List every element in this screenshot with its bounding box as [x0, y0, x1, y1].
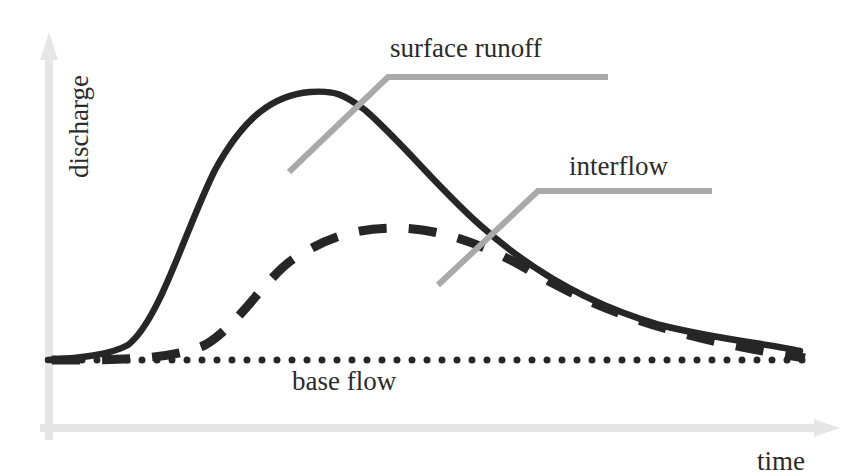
axes — [40, 32, 840, 440]
interflow-label: interflow — [569, 151, 668, 181]
surface-runoff-label: surface runoff — [390, 33, 542, 63]
y-axis-label: discharge — [64, 75, 94, 178]
leader-lines — [289, 77, 712, 285]
y-axis-arrowhead-icon — [40, 32, 58, 60]
hydrograph-diagram: surface runoff interflow base flow time … — [0, 0, 868, 476]
interflow-leader — [438, 191, 712, 285]
base-flow-label: base flow — [292, 366, 397, 396]
x-axis-label: time — [757, 446, 805, 476]
x-axis-arrowhead-icon — [814, 419, 840, 437]
